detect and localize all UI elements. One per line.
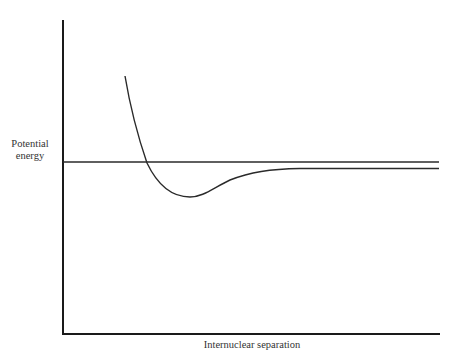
potential-energy-curve bbox=[125, 76, 439, 197]
y-axis-label-line-1: Potential bbox=[2, 138, 58, 150]
y-axis-label-line-2: energy bbox=[2, 150, 58, 162]
potential-energy-diagram bbox=[0, 0, 460, 364]
x-axis-label: Internuclear separation bbox=[0, 339, 460, 350]
y-axis-label: Potential energy bbox=[2, 138, 58, 162]
